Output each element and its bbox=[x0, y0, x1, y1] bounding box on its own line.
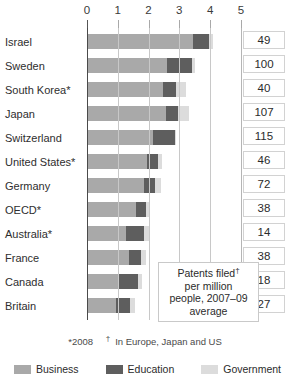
legend-swatch-icon bbox=[201, 365, 218, 374]
legend-item: Government bbox=[201, 363, 281, 375]
legend-label: Education bbox=[128, 363, 175, 375]
bar-segment-business bbox=[87, 226, 126, 241]
annotation-line-3: people, 2007–09 bbox=[161, 292, 256, 305]
x-tick-label-1: 1 bbox=[114, 4, 121, 16]
bar-segment-government bbox=[155, 178, 161, 193]
bar-segment-education bbox=[119, 274, 137, 289]
gridline-1 bbox=[118, 28, 119, 320]
legend-label: Business bbox=[36, 363, 79, 375]
legend: BusinessEducationGovernment bbox=[0, 361, 295, 377]
bar-segment-business bbox=[87, 178, 144, 193]
x-tick-label-3: 3 bbox=[176, 4, 183, 16]
legend-swatch-icon bbox=[14, 365, 31, 374]
gridline-2 bbox=[149, 28, 150, 320]
side-value-box: 14 bbox=[243, 223, 285, 241]
x-tick-mark-4 bbox=[210, 20, 211, 28]
bar-segment-business bbox=[87, 34, 193, 49]
bar-segment-business bbox=[87, 202, 136, 217]
side-value-box: 40 bbox=[243, 79, 285, 97]
x-tick-label-2: 2 bbox=[145, 4, 152, 16]
dagger-marker-footnote: † bbox=[106, 334, 110, 343]
bar-segment-business bbox=[87, 274, 119, 289]
legend-label: Government bbox=[223, 363, 281, 375]
bar-segment-education bbox=[163, 82, 176, 97]
annotation-line-2: per million bbox=[161, 280, 256, 293]
bar-segment-education bbox=[153, 130, 175, 145]
side-value-box: 100 bbox=[243, 55, 285, 73]
side-value-box: 46 bbox=[243, 151, 285, 169]
bar-segment-business bbox=[87, 58, 167, 73]
annotation-line-1: Patents filed† bbox=[161, 267, 256, 280]
side-value-box: 107 bbox=[243, 103, 285, 121]
bar-segment-business bbox=[87, 106, 166, 121]
x-tick-mark-3 bbox=[179, 20, 180, 28]
bar-segment-government bbox=[176, 82, 185, 97]
bar-segment-education bbox=[136, 202, 146, 217]
legend-swatch-icon bbox=[106, 365, 123, 374]
footnotes: *2008 †In Europe, Japan and US bbox=[0, 336, 295, 347]
footnote-dagger: †In Europe, Japan and US bbox=[106, 336, 227, 347]
dagger-marker: † bbox=[235, 266, 239, 275]
bar-segment-education bbox=[129, 250, 141, 265]
x-tick-mark-5 bbox=[241, 20, 242, 28]
bar-segment-government bbox=[158, 154, 163, 169]
x-tick-mark-1 bbox=[118, 20, 119, 28]
chart-container: 012345 IsraelSwedenSouth Korea*JapanSwit… bbox=[0, 0, 295, 380]
bar-segment-government bbox=[175, 130, 177, 145]
side-value-box: 115 bbox=[243, 127, 285, 145]
annotation-line-4: average bbox=[161, 305, 256, 318]
x-tick-mark-0 bbox=[87, 20, 88, 28]
gridline-0 bbox=[87, 28, 88, 320]
bar-segment-business bbox=[87, 250, 129, 265]
x-tick-label-0: 0 bbox=[84, 4, 91, 16]
bar-segment-government bbox=[192, 58, 195, 73]
x-tick-label-4: 4 bbox=[207, 4, 214, 16]
legend-item: Business bbox=[14, 363, 79, 375]
bar-segment-education bbox=[166, 106, 178, 121]
side-value-box: 38 bbox=[243, 199, 285, 217]
legend-item: Education bbox=[106, 363, 175, 375]
x-tick-label-5: 5 bbox=[238, 4, 245, 16]
bar-segment-business bbox=[87, 82, 163, 97]
x-tick-mark-2 bbox=[149, 20, 150, 28]
bar-segment-government bbox=[141, 250, 146, 265]
side-value-box: 72 bbox=[243, 175, 285, 193]
bar-segment-education bbox=[193, 34, 208, 49]
bar-segment-education bbox=[126, 226, 144, 241]
bar-segment-government bbox=[130, 298, 135, 313]
annotation-box: Patents filed† per million people, 2007–… bbox=[158, 262, 259, 322]
bar-segment-government bbox=[138, 274, 143, 289]
footnote-asterisk: *2008 bbox=[68, 336, 93, 347]
bar-segment-business bbox=[87, 130, 153, 145]
bar-segment-business bbox=[87, 298, 116, 313]
side-value-box: 49 bbox=[243, 31, 285, 49]
